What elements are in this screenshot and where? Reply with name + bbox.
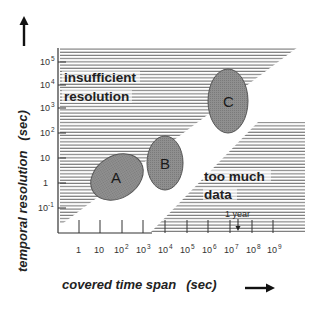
svg-text:covered time span(sec): covered time span(sec)	[62, 277, 217, 292]
svg-text:1: 1	[43, 178, 48, 188]
x-tick-labels: 1 10 102 103 104 105 106 107 108 109	[76, 243, 282, 255]
svg-text:103: 103	[136, 243, 151, 255]
svg-text:insufficient: insufficient	[64, 70, 137, 85]
svg-text:106: 106	[202, 243, 217, 255]
diagram-canvas: 105 104 103 102 10 1 10-1 1 10 102 103 1…	[0, 0, 319, 314]
svg-text:B: B	[160, 155, 170, 172]
svg-text:108: 108	[246, 243, 261, 255]
svg-text:1 year: 1 year	[225, 209, 250, 219]
svg-text:10: 10	[94, 245, 104, 255]
svg-text:10-1: 10-1	[38, 201, 54, 213]
svg-text:C: C	[223, 93, 234, 110]
y-axis-title: temporal resolution(sec)	[15, 110, 30, 272]
ellipse-b: B	[147, 136, 183, 190]
svg-text:109: 109	[267, 243, 282, 255]
ellipse-c: C	[208, 69, 248, 133]
svg-text:102: 102	[114, 243, 129, 255]
x-axis-title: covered time span(sec)	[62, 277, 217, 292]
svg-text:A: A	[111, 169, 121, 186]
svg-text:105: 105	[180, 243, 195, 255]
svg-text:too much: too much	[204, 169, 265, 184]
svg-text:107: 107	[224, 243, 239, 255]
svg-text:resolution: resolution	[64, 89, 129, 104]
svg-text:1: 1	[76, 245, 81, 255]
svg-text:104: 104	[40, 78, 55, 90]
svg-text:104: 104	[158, 243, 173, 255]
svg-text:102: 102	[40, 126, 55, 138]
svg-text:105: 105	[40, 55, 55, 67]
up-arrow-icon	[20, 16, 29, 46]
right-arrow-icon	[245, 284, 275, 293]
y-tick-labels: 105 104 103 102 10 1 10-1	[38, 55, 55, 213]
svg-text:10: 10	[40, 153, 50, 163]
svg-text:103: 103	[40, 101, 55, 113]
svg-text:data: data	[204, 187, 232, 202]
svg-text:temporal resolution(sec): temporal resolution(sec)	[15, 110, 30, 272]
